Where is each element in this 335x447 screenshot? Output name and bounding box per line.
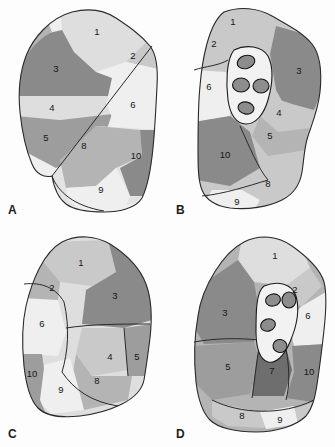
- segment-number-5: 5: [267, 130, 272, 141]
- segment-number-6: 6: [305, 310, 310, 321]
- panel-c: 1 2 3 4 5 6 8 9 10 C: [0, 224, 167, 447]
- panel-label-d: D: [176, 427, 185, 441]
- segment-number-3: 3: [222, 307, 227, 318]
- segment-number-3: 3: [112, 290, 117, 301]
- segment-number-7: 7: [269, 365, 274, 376]
- segment-number-4: 4: [49, 102, 54, 113]
- segment-number-5: 5: [134, 351, 139, 362]
- lung-segment-figure: 1 2 3 4 5 6 8 9 10 A: [0, 0, 335, 447]
- segment-number-6: 6: [39, 318, 44, 329]
- segment-number-10: 10: [220, 149, 231, 160]
- segment-number-8: 8: [265, 178, 270, 189]
- segment-number-1: 1: [94, 26, 99, 37]
- segment-number-2: 2: [211, 38, 216, 49]
- panel-label-b: B: [176, 203, 185, 217]
- segment-number-6: 6: [206, 81, 211, 92]
- vessel-2-icon: [233, 78, 250, 92]
- segment-number-10: 10: [27, 368, 38, 379]
- segment-number-8: 8: [239, 410, 244, 421]
- segment-number-5: 5: [43, 132, 48, 143]
- segment-number-1: 1: [78, 257, 83, 268]
- panel-label-a: A: [8, 203, 17, 217]
- segment-number-8: 8: [81, 140, 86, 151]
- segment-number-1: 1: [230, 16, 235, 27]
- segment-number-4: 4: [276, 107, 281, 118]
- segment-number-1: 1: [272, 250, 277, 261]
- segment-number-3: 3: [53, 63, 58, 74]
- segment-number-10: 10: [131, 150, 142, 161]
- segment-number-2: 2: [292, 284, 297, 295]
- vessel-3-icon: [253, 79, 269, 93]
- segment-number-9: 9: [234, 196, 239, 207]
- segment-number-9: 9: [98, 184, 103, 195]
- segment-number-6: 6: [130, 99, 135, 110]
- segment-number-2: 2: [49, 282, 54, 293]
- panel-d-segment-fills: [168, 224, 335, 447]
- panel-a-segment-fills: [0, 0, 167, 223]
- segment-number-10: 10: [304, 366, 315, 377]
- segment-number-4: 4: [107, 351, 112, 362]
- segment-number-9: 9: [277, 414, 282, 425]
- segment-number-8: 8: [94, 375, 99, 386]
- segment-number-3: 3: [296, 65, 301, 76]
- panel-b: 1 2 3 4 5 6 8 9 10 B: [168, 0, 335, 223]
- panel-d: 1 2 3 5 6 7 8 9 10 D: [168, 224, 335, 447]
- panel-label-c: C: [8, 427, 17, 441]
- segment-number-2: 2: [130, 50, 135, 61]
- segment-number-5: 5: [225, 361, 230, 372]
- panel-a: 1 2 3 4 5 6 8 9 10 A: [0, 0, 167, 223]
- segment-number-9: 9: [58, 384, 63, 395]
